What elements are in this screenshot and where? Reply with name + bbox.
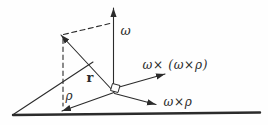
rotation-vector-diagram: ω ω× (ω×ρ) ω×ρ r ρ (0, 0, 268, 125)
right-angle-marker (111, 84, 121, 93)
plane-left-edge-line (14, 62, 93, 114)
ground-front-edge-line (13, 113, 260, 116)
r-label: r (87, 70, 94, 85)
projection-dashed-line (64, 23, 113, 35)
omega-label: ω (121, 23, 131, 38)
omega-cross-omega-cross-rho-label: ω× (ω×ρ) (143, 58, 209, 72)
omega-cross-rho-label: ω×ρ (164, 95, 193, 109)
rho-label: ρ (65, 89, 74, 103)
omega-cross-omega-cross-rho-arrow (118, 74, 166, 88)
omega-cross-rho-arrow (115, 94, 157, 105)
